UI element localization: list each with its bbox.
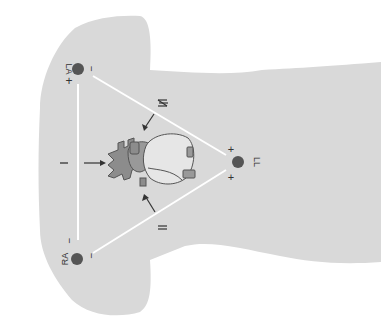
electrode-ll-label: LL [252,157,262,167]
electrode-ll-dot [232,156,244,168]
electrode-la-label: LA [64,63,74,74]
electrode-ra-label: RA [60,253,70,266]
ra-minus-side: − [86,253,97,259]
ll-plus-bottom: + [228,171,234,183]
ra-minus-top: − [64,238,75,244]
ll-plus-top: + [228,143,234,155]
einthoven-diagram: LA + − RA − − LL + + [0,0,392,335]
electrode-ra-dot [71,253,83,265]
la-plus-sign: + [65,74,72,88]
torso-silhouette [39,16,382,316]
la-minus-sign: − [86,66,97,72]
